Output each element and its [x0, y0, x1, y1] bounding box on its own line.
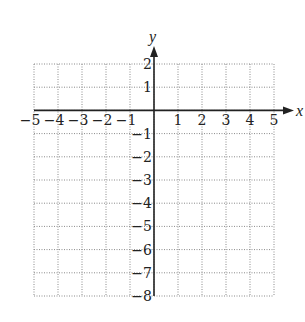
y-tick-label: −4 — [131, 195, 152, 211]
y-tick-label: −5 — [131, 218, 152, 234]
x-tick-label: −4 — [44, 112, 65, 128]
x-tick-label: 2 — [198, 112, 207, 128]
x-tick-label: −5 — [20, 112, 41, 128]
x-axis-label: x — [295, 102, 303, 119]
x-tick-label: 4 — [246, 112, 255, 128]
y-axis-label: y — [147, 28, 157, 46]
y-tick-label: −3 — [131, 172, 152, 188]
x-tick-label: −2 — [92, 112, 113, 128]
y-tick-labels: 21−1−2−3−4−5−6−7−8 — [131, 56, 152, 304]
y-tick-label: −1 — [131, 126, 152, 142]
x-tick-label: −3 — [68, 112, 89, 128]
axes — [34, 46, 294, 296]
y-tick-label: 1 — [143, 79, 152, 95]
x-tick-label: 1 — [174, 112, 183, 128]
x-axis-arrow-icon — [283, 106, 294, 114]
y-tick-label: −6 — [131, 242, 152, 258]
y-tick-label: −2 — [131, 149, 152, 165]
x-tick-label: 3 — [222, 112, 231, 128]
y-tick-label: −8 — [131, 288, 152, 304]
y-tick-label: 2 — [143, 56, 152, 72]
coordinate-grid: −5−4−3−2−112345 21−1−2−3−4−5−6−7−8 x y — [0, 0, 305, 322]
x-tick-label: 5 — [270, 112, 279, 128]
y-tick-label: −7 — [131, 265, 152, 281]
